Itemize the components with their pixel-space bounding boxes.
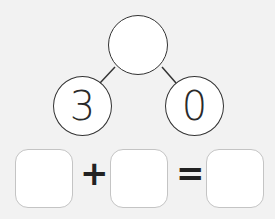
- addend2-box[interactable]: [110, 149, 168, 208]
- part-right-circle: 0: [165, 76, 224, 136]
- sum-box[interactable]: [206, 149, 264, 208]
- addend1-box[interactable]: [15, 149, 73, 208]
- part-left-circle: 3: [53, 76, 112, 136]
- equals-sign: =: [176, 156, 205, 190]
- plus-sign: +: [80, 156, 109, 190]
- whole-circle[interactable]: [108, 15, 168, 75]
